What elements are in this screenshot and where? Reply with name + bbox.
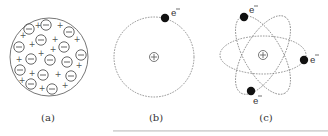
electron-minus-icon bbox=[14, 42, 24, 52]
electron-minus-icon bbox=[45, 55, 55, 65]
electron-minus-icon bbox=[59, 42, 69, 52]
electron-dot bbox=[300, 56, 308, 64]
plus-icon: + bbox=[62, 81, 69, 90]
electron-minus-icon bbox=[38, 70, 48, 80]
panel-b-single-orbit: e bbox=[114, 8, 194, 97]
nucleus-icon bbox=[259, 51, 268, 60]
plus-icon: + bbox=[19, 76, 26, 85]
electron-minus-icon bbox=[36, 35, 46, 45]
plus-icon: + bbox=[29, 69, 36, 78]
bottom-rule bbox=[113, 130, 328, 132]
electron-minus-icon bbox=[64, 27, 74, 37]
electron-label: e bbox=[310, 55, 315, 65]
plus-icon: + bbox=[35, 21, 42, 30]
electron-minus-icon bbox=[66, 71, 76, 81]
panel-c-caption: (c) bbox=[259, 112, 272, 123]
plus-icon: + bbox=[39, 84, 46, 93]
plus-icon: + bbox=[16, 55, 23, 64]
electron-label: e bbox=[171, 8, 176, 18]
electron-minus-icon bbox=[41, 20, 51, 30]
electron-minus-icon bbox=[26, 79, 36, 89]
electron-label: e bbox=[249, 5, 254, 15]
plus-icon: + bbox=[52, 35, 59, 44]
plus-icon: + bbox=[38, 49, 45, 58]
plus-icon: + bbox=[20, 31, 27, 40]
plus-icon: + bbox=[29, 40, 36, 49]
panel-a-caption: (a) bbox=[41, 112, 55, 123]
plus-icon: + bbox=[50, 45, 57, 54]
electron-minus-icon bbox=[26, 54, 36, 64]
electron-dot bbox=[247, 87, 255, 95]
plus-icon: + bbox=[74, 35, 81, 44]
electron-dot bbox=[161, 14, 169, 22]
plus-icon: + bbox=[76, 61, 83, 70]
panel-b-caption: (b) bbox=[149, 112, 163, 123]
electron-minus-icon bbox=[76, 50, 86, 60]
electron-dot bbox=[240, 13, 248, 21]
panel-c-multi-orbit: e e e bbox=[220, 5, 319, 106]
panel-a-plum-pudding: + + + + + + + + + + + + + + + bbox=[10, 18, 88, 96]
electron-label: e bbox=[253, 96, 258, 106]
electron-minus-icon bbox=[62, 57, 72, 67]
electron-minus-icon bbox=[47, 84, 57, 94]
nucleus-icon bbox=[150, 53, 159, 62]
electron-minus-icon bbox=[15, 65, 25, 75]
plus-icon: + bbox=[55, 70, 62, 79]
plus-icon: + bbox=[57, 21, 64, 30]
